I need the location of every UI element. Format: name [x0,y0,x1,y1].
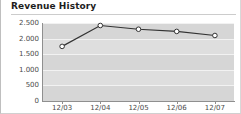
data-point-marker[interactable] [60,44,65,49]
data-point-marker[interactable] [136,27,141,32]
data-point-marker[interactable] [98,23,103,28]
revenue-markers [60,23,217,49]
x-axis-tick-label: 12/07 [195,104,235,112]
x-axis-tick-mark [177,102,178,104]
data-point-marker[interactable] [174,29,179,34]
x-axis-tick-mark [62,102,63,104]
x-axis-tick-mark [215,102,216,104]
x-axis-tick-label: 12/05 [119,104,159,112]
y-axis-tick-label: 1.500 [3,50,39,58]
page-title: Revenue History [11,1,96,11]
y-axis-tick-label: 2.500 [3,19,39,27]
x-axis-tick-label: 12/03 [42,104,82,112]
y-axis-tick-label: 1.000 [3,66,39,74]
x-axis-tick-mark [100,102,101,104]
y-axis-tick-label: 2.000 [3,35,39,43]
y-axis-tick-label: 500 [3,81,39,89]
data-point-marker[interactable] [213,33,218,38]
header-divider [11,14,236,15]
y-axis-tick-label: 0 [3,97,39,105]
panel-header: Revenue History [1,0,241,16]
revenue-history-panel: Revenue History 05001.0001.5002.0002.500… [0,0,241,114]
chart-area: 05001.0001.5002.0002.50012/0312/0412/051… [1,16,241,114]
x-axis-tick-mark [139,102,140,104]
x-axis-tick-label: 12/06 [157,104,197,112]
x-axis-tick-label: 12/04 [80,104,120,112]
